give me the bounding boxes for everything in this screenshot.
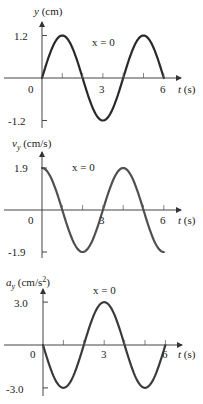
- shm-graphs: y (cm) x = 0 1.2 -1.2 0 3 6 t (s) vy (cm…: [0, 0, 203, 404]
- x-tick-label-6: 6: [160, 83, 166, 95]
- x-tick-label-3: 3: [99, 214, 105, 226]
- y-axis-label: y (cm): [33, 5, 63, 18]
- displacement-plot: y (cm) x = 0 1.2 -1.2 0 3 6 t (s): [4, 5, 196, 128]
- x-tick-label-3: 3: [101, 348, 107, 360]
- x-tick-label-0: 0: [28, 83, 34, 95]
- x-tick-label-3: 3: [99, 83, 105, 95]
- x-axis-label: t (s): [178, 83, 196, 96]
- velocity-plot: vy (cm/s) x = 0 1.9 -1.9 0 3 6 t (s): [4, 137, 196, 258]
- y-tick-label-max: 3.0: [14, 297, 28, 309]
- y-tick-label-min: -1.9: [8, 246, 26, 258]
- x-tick-label-0: 0: [30, 348, 36, 360]
- y-axis-label: vy (cm/s): [12, 137, 52, 152]
- y-tick-label-max: 1.9: [14, 162, 28, 174]
- annotation-x-equals-0: x = 0: [72, 161, 95, 173]
- x-tick-label-6: 6: [160, 214, 166, 226]
- y-tick-label-min: -3.0: [6, 383, 24, 395]
- y-tick-label-min: -1.2: [8, 115, 25, 127]
- annotation-x-equals-0: x = 0: [92, 36, 115, 48]
- y-axis-label: ay (cm/s2): [6, 275, 50, 291]
- y-tick-label-max: 1.2: [14, 30, 28, 42]
- x-axis-label: t (s): [178, 348, 196, 361]
- acceleration-plot: ay (cm/s2) x = 0 3.0 -3.0 0 3 6 t (s): [4, 275, 196, 396]
- x-tick-label-0: 0: [28, 214, 34, 226]
- x-axis-label: t (s): [178, 214, 196, 227]
- x-tick-label-6: 6: [162, 348, 168, 360]
- annotation-x-equals-0: x = 0: [93, 284, 116, 296]
